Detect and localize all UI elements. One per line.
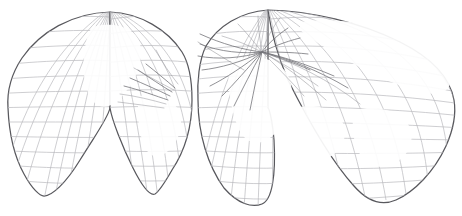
- map-figure-canvas: [0, 0, 462, 216]
- interrupted-projection-map: [0, 0, 462, 216]
